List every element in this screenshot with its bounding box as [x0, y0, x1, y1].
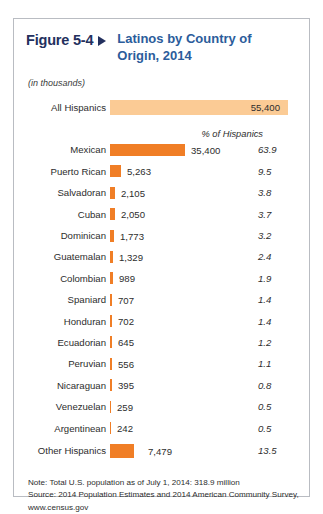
bar: [110, 336, 112, 348]
bar-zone: 645: [110, 332, 258, 353]
chart-body: All Hispanics 55,400 % of Hispanics Mexi…: [14, 88, 309, 462]
percent-value: 1.4: [258, 316, 317, 327]
figure-header: Figure 5-4 Latinos by Country of Origin,…: [14, 19, 309, 64]
bar-value: 5,263: [127, 166, 151, 177]
bar-zone: 259: [110, 396, 258, 417]
percent-value: 13.5: [258, 445, 323, 456]
row-label: Colombian: [14, 273, 110, 284]
percent-value: 0.5: [258, 401, 317, 412]
bar: [110, 401, 111, 413]
table-row: Guatemalan1,3292.4: [14, 246, 309, 267]
table-row: Puerto Rican5,2639.5: [14, 161, 309, 182]
bar-value: 989: [119, 273, 135, 284]
bar-value: 2,050: [121, 209, 145, 220]
figure-number: Figure 5-4: [26, 31, 93, 48]
bar-zone: 395: [110, 375, 258, 396]
bar-zone: 35,400: [110, 139, 258, 160]
row-label: Honduran: [14, 316, 110, 327]
bar: [110, 379, 112, 391]
percent-value: 3.8: [258, 187, 317, 198]
bar-value: 395: [118, 380, 134, 391]
bar-value: 702: [118, 316, 134, 327]
table-row: Other Hispanics7,47913.5: [14, 439, 309, 463]
triangle-right-icon: [93, 31, 111, 46]
table-row: Salvadoran2,1053.8: [14, 182, 309, 203]
percent-value: 63.9: [258, 144, 323, 155]
bar-value: 259: [117, 401, 133, 412]
row-label: Other Hispanics: [14, 445, 110, 456]
bar: [110, 444, 134, 458]
bar-zone: 7,479: [110, 439, 258, 463]
bar-zone: 989: [110, 268, 258, 289]
table-row: Argentinean2420.5: [14, 417, 309, 438]
table-row: Cuban2,0503.7: [14, 203, 309, 224]
percent-value: 3.7: [258, 209, 317, 220]
bar: [110, 294, 112, 306]
row-label: Nicaraguan: [14, 380, 110, 391]
figure-panel: Figure 5-4 Latinos by Country of Origin,…: [13, 18, 310, 497]
row-label: Spaniard: [14, 294, 110, 305]
row-label: Argentinean: [14, 423, 110, 434]
total-bar-value: 55,400: [251, 102, 280, 113]
row-label: Mexican: [14, 144, 110, 155]
row-label: Guatemalan: [14, 251, 110, 262]
bar-zone: 702: [110, 310, 258, 331]
bar-value: 2,105: [121, 187, 145, 198]
row-label: Puerto Rican: [14, 166, 110, 177]
bar-value: 35,400: [191, 144, 220, 155]
percent-value: 1.4: [258, 294, 317, 305]
figure-title: Latinos by Country of Origin, 2014: [111, 31, 297, 64]
percent-column-header-row: % of Hispanics: [14, 119, 309, 139]
bar-value: 242: [117, 423, 133, 434]
percent-value: 3.2: [258, 230, 317, 241]
total-bar-zone: 55,400: [110, 95, 288, 119]
percent-value: 1.9: [258, 273, 317, 284]
bar-zone: 1,773: [110, 225, 258, 246]
bar-zone: 2,105: [110, 182, 258, 203]
row-label: Venezuelan: [14, 401, 110, 412]
table-row: Honduran7021.4: [14, 310, 309, 331]
percent-value: 0.5: [258, 423, 317, 434]
bar: [110, 144, 185, 156]
total-row: All Hispanics 55,400: [14, 95, 309, 119]
bar-zone: 707: [110, 289, 258, 310]
percent-column-header: % of Hispanics: [106, 129, 309, 139]
row-label: Cuban: [14, 209, 110, 220]
bar-value: 7,479: [148, 445, 172, 456]
bar-value: 1,329: [119, 251, 143, 262]
table-row: Mexican35,40063.9: [14, 139, 309, 160]
table-row: Ecuadorian6451.2: [14, 332, 309, 353]
table-row: Dominican1,7733.2: [14, 225, 309, 246]
row-label: Salvadoran: [14, 187, 110, 198]
table-row: Spaniard7071.4: [14, 289, 309, 310]
row-label: Ecuadorian: [14, 337, 110, 348]
bar-zone: 5,263: [110, 161, 258, 182]
row-label: Peruvian: [14, 358, 110, 369]
percent-value: 9.5: [258, 166, 317, 177]
percent-value: 1.2: [258, 337, 317, 348]
bar: [110, 208, 115, 220]
bar: [110, 358, 112, 370]
footnote-note: Note: Total U.S. population as of July 1…: [28, 477, 309, 490]
bar-zone: 242: [110, 417, 258, 438]
table-row: Peruvian5561.1: [14, 353, 309, 374]
bar-zone: 1,329: [110, 246, 258, 267]
percent-value: 2.4: [258, 251, 317, 262]
table-row: Colombian9891.9: [14, 268, 309, 289]
bar: [110, 272, 113, 284]
bar-zone: 556: [110, 353, 258, 374]
bar: [110, 315, 112, 327]
units-note: (in thousands): [14, 64, 309, 88]
bar: [110, 187, 115, 199]
footnote-source: Source: 2014 Population Estimates and 20…: [28, 489, 309, 502]
table-row: Nicaraguan3950.8: [14, 375, 309, 396]
footnotes: Note: Total U.S. population as of July 1…: [14, 463, 309, 514]
total-row-label: All Hispanics: [14, 102, 110, 113]
percent-value: 0.8: [258, 380, 317, 391]
percent-value: 1.1: [258, 358, 317, 369]
bar-value: 1,773: [120, 230, 144, 241]
bar-zone: 2,050: [110, 203, 258, 224]
row-label: Dominican: [14, 230, 110, 241]
bar-value: 556: [118, 358, 134, 369]
bar: [110, 251, 113, 263]
